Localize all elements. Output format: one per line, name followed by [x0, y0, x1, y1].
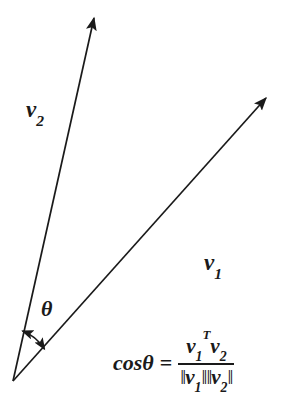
vector-label-v2: v2	[26, 98, 44, 125]
formula-lhs: cosθ	[113, 352, 154, 374]
vector-v2-line	[13, 18, 94, 381]
formula-numerator: v1Tv2	[184, 334, 228, 363]
formula-fraction: v1Tv2 ‖v1‖‖v2‖	[178, 334, 234, 392]
vector-label-v1: v1	[204, 251, 222, 278]
formula-equals-sign: =	[160, 352, 173, 374]
formula-denominator: ‖v1‖‖v2‖	[178, 365, 234, 392]
angle-arc-arrow	[23, 331, 45, 349]
cosine-similarity-formula: cosθ = v1Tv2 ‖v1‖‖v2‖	[113, 334, 234, 392]
angle-label-theta: θ	[41, 298, 52, 320]
